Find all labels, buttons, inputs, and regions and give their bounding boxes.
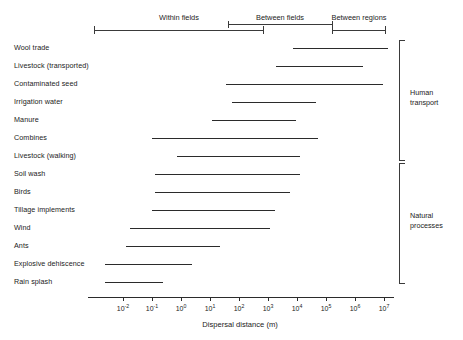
x-axis-tick-10	[384, 297, 385, 301]
tick-exponent-6: 3	[270, 303, 273, 309]
x-axis-tick-7	[297, 297, 298, 301]
scale-annotation-bar-within-fields	[94, 30, 263, 31]
scale-annotation-label-between-fields: Between fields	[256, 13, 304, 22]
range-bar-soil-wash	[155, 174, 300, 175]
x-axis-tick-label-8: 105	[321, 305, 332, 312]
scale-annotation-cap-within-fields-start	[94, 26, 95, 34]
scale-annotation-cap-within-fields-end	[263, 26, 264, 34]
x-axis-tick-6	[268, 297, 269, 301]
category-label-soil-wash: Soil wash	[14, 170, 45, 177]
scale-annotation-cap-between-regions-start	[332, 26, 333, 34]
x-axis-tick-label-1: 10-2	[117, 305, 129, 312]
category-label-rain-splash: Rain splash	[14, 278, 52, 285]
tick-exponent-9: 6	[357, 303, 360, 309]
category-label-wool-trade: Wool trade	[14, 44, 49, 51]
group-label-human-transport-line2: transport	[410, 98, 438, 108]
x-axis-tick-2	[152, 297, 153, 301]
x-axis-tick-9	[355, 297, 356, 301]
x-axis-tick-5	[239, 297, 240, 301]
x-axis-tick-4	[210, 297, 211, 301]
category-label-irrigation-water: Irrigation water	[14, 98, 63, 105]
range-bar-wind	[130, 228, 270, 229]
range-bar-ants	[126, 246, 220, 247]
group-bracket-human-transport	[399, 40, 405, 161]
group-label-human-transport: Human transport	[410, 88, 438, 109]
x-axis-tick-label-5: 102	[234, 305, 245, 312]
tick-mantissa-4: 10	[205, 305, 213, 312]
x-axis-tick-label-3: 100	[176, 305, 187, 312]
tick-mantissa-9: 10	[350, 305, 358, 312]
x-axis-tick-label-4: 101	[205, 305, 216, 312]
range-bar-combines	[152, 138, 318, 139]
range-bar-contaminated-seed	[226, 84, 383, 85]
tick-exponent-2: -1	[154, 303, 159, 309]
range-bar-irrigation-water	[232, 102, 316, 103]
scale-annotation-cap-between-regions-end	[385, 26, 386, 34]
tick-exponent-5: 2	[241, 303, 244, 309]
range-bar-explosive-dehiscence	[105, 264, 192, 265]
x-axis-line	[88, 297, 394, 298]
group-label-natural-processes-line2: processes	[410, 221, 443, 231]
group-label-human-transport-line1: Human	[410, 88, 438, 98]
scale-annotation-label-within-fields: Within fields	[159, 13, 199, 22]
tick-mantissa-10: 10	[379, 305, 387, 312]
tick-mantissa-1: 10	[117, 305, 125, 312]
category-label-wind: Wind	[14, 224, 31, 231]
dispersal-distance-chart: Within fields Between fields Between reg…	[0, 0, 463, 340]
x-axis-tick-label-7: 104	[292, 305, 303, 312]
tick-exponent-8: 5	[328, 303, 331, 309]
tick-mantissa-5: 10	[234, 305, 242, 312]
tick-exponent-1: -2	[125, 303, 130, 309]
x-axis-tick-3	[181, 297, 182, 301]
category-label-livestock-walking: Livestock (walking)	[14, 152, 76, 159]
x-axis-tick-label-2: 10-1	[146, 305, 158, 312]
category-label-manure: Manure	[14, 116, 39, 123]
tick-mantissa-7: 10	[292, 305, 300, 312]
category-label-combines: Combines	[14, 134, 47, 141]
range-bar-tillage-implements	[152, 210, 275, 211]
range-bar-rain-splash	[105, 282, 163, 283]
category-label-birds: Birds	[14, 188, 31, 195]
category-label-ants: Ants	[14, 242, 29, 249]
range-bar-manure	[212, 120, 296, 121]
tick-exponent-7: 4	[299, 303, 302, 309]
range-bar-livestock-transported	[276, 66, 363, 67]
range-bar-livestock-walking	[177, 156, 300, 157]
tick-mantissa-3: 10	[176, 305, 184, 312]
scale-annotation-label-between-regions: Between regions	[331, 13, 386, 22]
range-bar-wool-trade	[293, 48, 388, 49]
x-axis-tick-label-6: 103	[263, 305, 274, 312]
tick-exponent-4: 1	[212, 303, 215, 309]
tick-mantissa-2: 10	[146, 305, 154, 312]
category-label-explosive-dehiscence: Explosive dehiscence	[14, 260, 85, 267]
x-axis-tick-label-9: 106	[350, 305, 361, 312]
scale-annotation-cap-between-fields-start	[228, 21, 229, 28]
x-axis-title: Dispersal distance (m)	[202, 320, 278, 329]
tick-mantissa-8: 10	[321, 305, 329, 312]
tick-mantissa-6: 10	[263, 305, 271, 312]
x-axis-tick-8	[326, 297, 327, 301]
category-label-contaminated-seed: Contaminated seed	[14, 80, 78, 87]
category-label-tillage-implements: Tillage implements	[14, 206, 75, 213]
range-bar-birds	[155, 192, 290, 193]
tick-exponent-3: 0	[183, 303, 186, 309]
x-axis-tick-1	[123, 297, 124, 301]
scale-annotation-bar-between-fields	[228, 24, 332, 25]
group-label-natural-processes-line1: Natural	[410, 211, 443, 221]
group-label-natural-processes: Natural processes	[410, 211, 443, 232]
tick-exponent-10: 7	[386, 303, 389, 309]
group-bracket-natural-processes	[399, 163, 405, 284]
scale-annotation-bar-between-regions	[332, 30, 385, 31]
category-label-livestock-transported: Livestock (transported)	[14, 62, 89, 69]
x-axis-tick-label-10: 107	[379, 305, 390, 312]
